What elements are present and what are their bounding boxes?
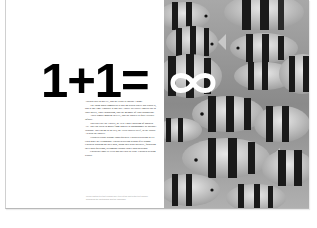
body-copy: Add our dial to our PC, and the result i… [85, 100, 157, 158]
body-paragraph: Add a simple modem to a PC, and the answ… [85, 114, 157, 121]
body-paragraph: Children's logic is vivid and speeded to… [85, 150, 157, 157]
infinity-icon [167, 68, 219, 98]
body-paragraph: The thing about computers is that go sea… [85, 104, 157, 115]
body-paragraph: Teachers report strange consequences. Ch… [85, 136, 157, 150]
body-paragraph: You can visit the Louvre, or New York's … [85, 122, 157, 136]
photo-caption: Lorem caption text set in small grey typ… [86, 195, 156, 201]
fish-school-illustration [164, 0, 309, 208]
headline: 1+1= [41, 56, 149, 105]
tropical-fish-photo [164, 0, 309, 208]
magazine-spread: 1+1= Add our dial to our PC, and the res… [5, 0, 309, 209]
